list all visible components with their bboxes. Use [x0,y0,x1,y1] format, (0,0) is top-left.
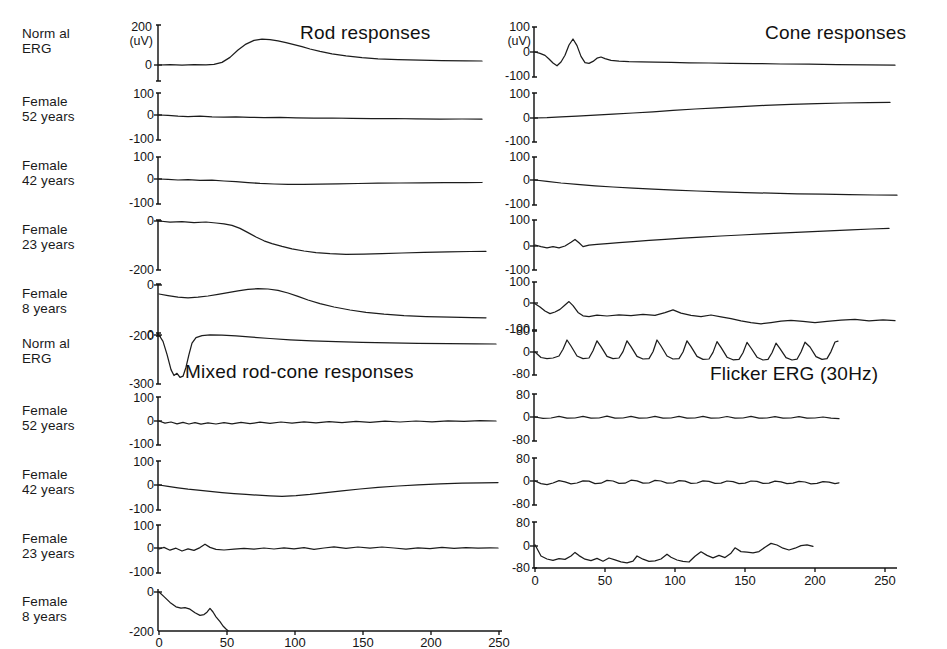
row-label-line: Female [22,403,118,418]
svg-text:-80: -80 [512,367,530,381]
svg-text:100: 100 [133,87,154,101]
row-label-line: Female [22,286,118,301]
row-label-mixed-0: Norm al ERG [22,336,118,366]
row-label-line: Norm al [22,336,118,351]
trace-flicker-f42: 80 0 -80 [485,450,945,514]
svg-text:80: 80 [516,388,530,402]
row-label-line: Female [22,94,118,109]
row-label-mixed-3: Female 23 years [22,531,118,561]
row-label-line: 42 years [22,173,118,188]
row-label-mixed-4: Female 8 years [22,594,118,624]
row-label-line: Female [22,467,118,482]
trace-cone-f52: 100 0 -100 [485,86,940,150]
row-label-line: 8 years [22,301,118,316]
svg-text:0: 0 [523,410,530,424]
trace-mixed-normal: 0 -300 [110,322,510,394]
svg-text:0: 0 [523,45,530,59]
trace-mixed-f23: 100 0 -100 [110,518,510,582]
svg-text:0: 0 [147,108,154,122]
svg-text:(uV): (uV) [129,34,153,48]
trace-rod-f23: 0 -200 [110,212,500,280]
svg-text:0: 0 [147,585,154,599]
row-label-rod-0: Norm al ERG [22,26,118,56]
panel-cone-responses: Cone responses 100 (uV) 0 -100 100 0 -10… [485,18,947,348]
svg-text:0: 0 [523,296,530,310]
svg-text:0: 0 [523,173,530,187]
svg-text:-80: -80 [512,497,530,511]
row-label-line: Norm al [22,26,118,41]
row-label-rod-2: Female 42 years [22,158,118,188]
row-label-line: Female [22,531,118,546]
row-label-line: Female [22,158,118,173]
svg-text:80: 80 [516,324,530,338]
trace-mixed-f42: 100 0 -100 [110,454,510,518]
trace-mixed-f52: 100 0 -100 [110,390,510,454]
svg-text:-100: -100 [129,437,154,451]
svg-text:-80: -80 [512,433,530,447]
svg-text:80: 80 [516,452,530,466]
trace-rod-normal: 200 (uV) 0 [110,18,500,84]
row-label-line: 8 years [22,609,118,624]
svg-text:0: 0 [147,414,154,428]
svg-text:100: 100 [664,573,686,588]
trace-flicker-f8: 80 0 -80 0 50 100 150 [485,514,945,592]
row-label-line: Female [22,222,118,237]
row-label-mixed-1: Female 52 years [22,403,118,433]
svg-text:100: 100 [133,519,154,533]
svg-text:-100: -100 [505,134,530,148]
svg-text:100: 100 [133,391,154,405]
trace-rod-f42: 100 0 -100 [110,149,500,213]
svg-text:0: 0 [523,345,530,359]
svg-text:0: 0 [523,539,530,553]
row-label-line: ERG [22,351,118,366]
panel-mixed-rod-cone-responses: Mixed rod-cone responses Norm al ERG 0 -… [0,320,520,646]
svg-text:0: 0 [523,474,530,488]
svg-text:-200: -200 [129,263,154,277]
trace-cone-normal: 100 (uV) 0 -100 [485,18,940,84]
row-label-line: 42 years [22,482,118,497]
trace-cone-f42: 100 0 -100 [485,149,940,213]
row-label-rod-3: Female 23 years [22,222,118,252]
svg-text:-100: -100 [129,502,154,516]
trace-cone-f23: 100 0 -100 [485,212,940,278]
svg-text:0: 0 [147,328,154,342]
svg-text:0: 0 [523,111,530,125]
row-label-rod-1: Female 52 years [22,94,118,124]
svg-text:-100: -100 [505,69,530,83]
svg-text:100: 100 [509,150,530,164]
svg-text:-100: -100 [129,132,154,146]
row-label-line: 52 years [22,418,118,433]
svg-text:-100: -100 [505,197,530,211]
svg-text:250: 250 [874,573,896,588]
svg-text:150: 150 [734,573,756,588]
svg-text:100: 100 [509,87,530,101]
row-label-line: 52 years [22,109,118,124]
svg-text:-80: -80 [512,561,530,575]
svg-text:100: 100 [133,455,154,469]
trace-rod-f52: 100 0 -100 [110,86,500,150]
caption-fragment-bottom [0,636,947,648]
svg-text:0: 0 [147,478,154,492]
svg-text:0: 0 [147,172,154,186]
row-label-line: ERG [22,41,118,56]
row-label-rod-4: Female 8 years [22,286,118,316]
svg-text:200: 200 [804,573,826,588]
svg-text:100: 100 [133,150,154,164]
svg-text:0: 0 [145,58,152,72]
panel-rod-responses: Rod responses Norm al ERG 200 (uV) 0 Fem… [0,18,500,348]
svg-text:0: 0 [147,541,154,555]
row-label-line: 23 years [22,546,118,561]
svg-text:100: 100 [509,20,530,34]
row-label-line: 23 years [22,237,118,252]
svg-text:0: 0 [147,214,154,228]
svg-text:200: 200 [131,20,152,34]
svg-text:50: 50 [598,573,612,588]
svg-text:100: 100 [509,275,530,289]
svg-text:0: 0 [523,239,530,253]
svg-text:100: 100 [509,213,530,227]
svg-text:80: 80 [516,516,530,530]
row-label-mixed-2: Female 42 years [22,467,118,497]
trace-flicker-f52: 80 0 -80 [485,386,945,450]
svg-text:0: 0 [531,573,538,588]
